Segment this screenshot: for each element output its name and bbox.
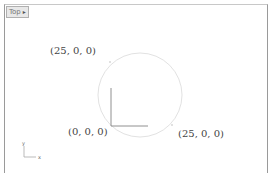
- point-marker[interactable]: [109, 61, 111, 63]
- point-annotation: (0, 0, 0): [68, 126, 108, 137]
- viewport-canvas[interactable]: [0, 0, 273, 173]
- point-annotation: (25, 0, 0): [178, 128, 224, 139]
- point-marker[interactable]: [171, 124, 173, 126]
- world-axis-x-label: x: [38, 154, 41, 160]
- world-axis-y-label: y: [22, 140, 25, 146]
- point-annotation: (25, 0, 0): [50, 45, 96, 56]
